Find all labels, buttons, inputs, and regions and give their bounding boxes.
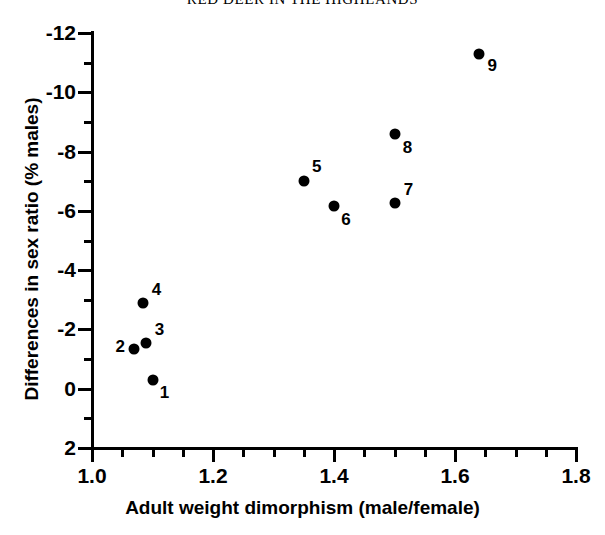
x-tick-label: 1.6	[440, 464, 469, 488]
y-tick-minor	[84, 299, 91, 302]
x-tick-minor	[515, 450, 518, 457]
x-axis-label: Adult weight dimorphism (male/female)	[0, 497, 605, 519]
data-point-4	[138, 297, 149, 308]
x-tick-major	[575, 450, 578, 462]
x-tick-minor	[394, 450, 397, 457]
x-tick-major	[91, 450, 94, 462]
x-tick-major	[212, 450, 215, 462]
x-tick-minor	[273, 450, 276, 457]
x-tick-major	[454, 450, 457, 462]
data-point-5	[298, 176, 309, 187]
y-tick-major	[78, 32, 91, 35]
x-tick-minor	[182, 450, 185, 457]
y-tick-major	[78, 210, 91, 213]
x-tick-label: 1.8	[561, 464, 590, 488]
x-tick-minor	[152, 450, 155, 457]
x-tick-label: 1.0	[77, 464, 106, 488]
data-point-9	[474, 48, 485, 59]
x-tick-minor	[484, 450, 487, 457]
data-point-6	[329, 201, 340, 212]
x-tick-major	[333, 450, 336, 462]
data-point-label-4: 4	[152, 280, 161, 300]
figure-title: RED DEER IN THE HIGHLANDS	[0, 0, 605, 8]
data-point-label-9: 9	[487, 56, 496, 76]
x-tick-label: 1.2	[198, 464, 227, 488]
data-point-label-8: 8	[403, 138, 412, 158]
y-tick-major	[78, 447, 91, 450]
y-tick-major	[78, 91, 91, 94]
y-tick-minor	[84, 180, 91, 183]
x-tick-label: 1.4	[319, 464, 348, 488]
y-tick-minor	[84, 417, 91, 420]
y-axis-label: Differences in sex ratio (% males)	[21, 39, 43, 459]
data-point-label-7: 7	[404, 180, 413, 200]
x-tick-minor	[242, 450, 245, 457]
x-tick-minor	[303, 450, 306, 457]
x-tick-minor	[121, 450, 124, 457]
x-tick-minor	[424, 450, 427, 457]
scatter-plot-figure: RED DEER IN THE HIGHLANDS -12-10-8-6-4-2…	[0, 0, 605, 535]
data-point-label-1: 1	[160, 383, 169, 403]
data-point-7	[389, 198, 400, 209]
y-tick-minor	[84, 240, 91, 243]
data-point-3	[141, 337, 152, 348]
data-point-2	[129, 343, 140, 354]
y-tick-major	[78, 151, 91, 154]
y-tick-major	[78, 388, 91, 391]
y-tick-major	[78, 328, 91, 331]
data-point-1	[147, 374, 158, 385]
y-tick-minor	[84, 121, 91, 124]
x-tick-minor	[363, 450, 366, 457]
data-point-label-6: 6	[341, 210, 350, 230]
y-axis-line	[91, 31, 94, 450]
data-point-label-2: 2	[116, 337, 125, 357]
data-point-label-3: 3	[155, 320, 164, 340]
y-tick-minor	[84, 62, 91, 65]
x-tick-minor	[545, 450, 548, 457]
data-point-label-5: 5	[312, 157, 321, 177]
data-point-8	[389, 128, 400, 139]
y-tick-minor	[84, 358, 91, 361]
y-tick-major	[78, 269, 91, 272]
